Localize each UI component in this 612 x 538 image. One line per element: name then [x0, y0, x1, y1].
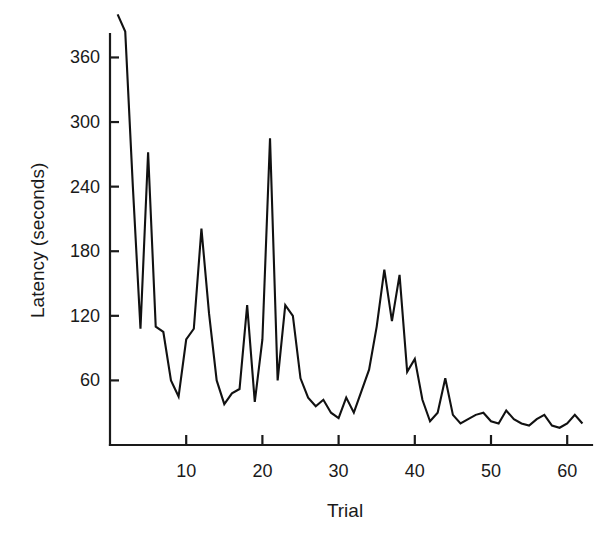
y-tick-label: 360 — [70, 47, 100, 67]
x-tick-label: 60 — [557, 461, 577, 481]
x-tick-label: 30 — [329, 461, 349, 481]
latency-data-line — [118, 14, 583, 427]
x-tick-label: 10 — [176, 461, 196, 481]
x-tick-label: 50 — [481, 461, 501, 481]
y-axis-ticks: 60120180240300360 — [70, 47, 119, 390]
x-axis-label: Trial — [327, 500, 363, 521]
y-tick-label: 60 — [80, 370, 100, 390]
x-tick-label: 40 — [405, 461, 425, 481]
y-tick-label: 120 — [70, 306, 100, 326]
y-axis-label: Latency (seconds) — [27, 163, 48, 318]
latency-by-trial-chart: Latency (seconds) Trial 6012018024030036… — [0, 0, 612, 538]
y-tick-label: 180 — [70, 241, 100, 261]
x-tick-label: 20 — [252, 461, 272, 481]
y-tick-label: 300 — [70, 112, 100, 132]
y-tick-label: 240 — [70, 177, 100, 197]
x-axis-ticks: 102030405060 — [176, 435, 577, 481]
